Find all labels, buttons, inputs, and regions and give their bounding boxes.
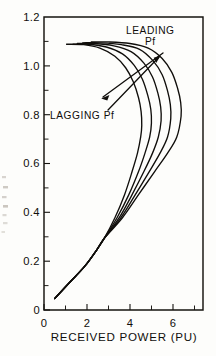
y-tick-label-0-2: 0.2 <box>23 255 40 267</box>
y-axis-ticks <box>44 41 50 310</box>
x-axis-ticks <box>44 304 195 310</box>
figure-container: 0 0.2 0.4 0.6 0.8 1.0 1.2 0 2 4 6 RECEIV… <box>0 0 216 356</box>
x-tick-label-6: 6 <box>170 317 177 329</box>
y-tick-label-0-4: 0.4 <box>23 206 40 218</box>
y-tick-label-1-0: 1.0 <box>23 60 40 72</box>
y-tick-label-1-2: 1.2 <box>23 11 40 23</box>
curve-group <box>55 42 182 299</box>
leading-pf-label-line2: Pf <box>145 36 156 47</box>
y-tick-label-0-6: 0.6 <box>23 157 40 169</box>
x-tick-label-0: 0 <box>41 317 48 329</box>
y-tick-label-0-8: 0.8 <box>23 109 40 121</box>
curve-3 <box>55 43 162 298</box>
lagging-pf-label-line1: LAGGING Pf <box>50 110 114 121</box>
leading-pf-arrow-shaft <box>103 53 163 97</box>
pv-curve-chart: 0 0.2 0.4 0.6 0.8 1.0 1.2 0 2 4 6 RECEIV… <box>0 0 216 356</box>
scan-artifacts <box>2 176 9 233</box>
lagging-pf-annotation: LAGGING Pf <box>50 55 161 121</box>
plot-frame <box>44 17 203 310</box>
leading-pf-label-line1: LEADING <box>126 25 175 36</box>
y-tick-label-0: 0 <box>33 304 40 316</box>
x-tick-label-2: 2 <box>84 317 91 329</box>
curve-1 <box>55 44 142 298</box>
curve-5 <box>55 42 182 299</box>
leading-pf-annotation: LEADING Pf <box>101 25 174 101</box>
curve-2 <box>55 44 152 298</box>
x-tick-label-4: 4 <box>127 317 134 329</box>
x-axis-title: RECEIVED POWER (PU) <box>51 330 198 343</box>
